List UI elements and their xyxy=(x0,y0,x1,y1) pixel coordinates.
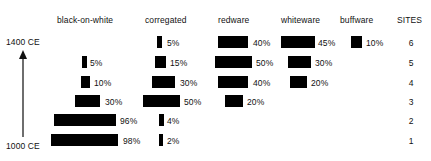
bar-label-black-on-white-site4: 10% xyxy=(94,78,111,88)
column-header-sites: SITES xyxy=(397,15,422,25)
column-header-redware: redware xyxy=(218,15,249,25)
bar-black-on-white-site2 xyxy=(54,114,116,126)
bar-label-corregated-site6: 5% xyxy=(167,38,180,48)
bar-corregated-site2 xyxy=(159,114,164,126)
bar-label-corregated-site4: 30% xyxy=(180,78,197,88)
bar-corregated-site1 xyxy=(159,134,163,146)
site-number-6: 6 xyxy=(400,38,422,48)
bar-whiteware-site4 xyxy=(290,76,307,88)
bar-label-black-on-white-site1: 98% xyxy=(123,136,140,146)
bar-whiteware-site5 xyxy=(288,56,311,68)
bar-label-corregated-site3: 50% xyxy=(184,97,201,107)
bar-redware-site4 xyxy=(218,76,248,88)
bar-label-black-on-white-site2: 96% xyxy=(120,116,137,126)
bar-black-on-white-site5 xyxy=(82,56,87,68)
site-number-4: 4 xyxy=(400,78,422,88)
bar-redware-site5 xyxy=(215,56,252,68)
bar-label-buffware-site6: 10% xyxy=(366,38,383,48)
column-header-corregated: corregated xyxy=(145,15,187,25)
bar-corregated-site3 xyxy=(143,95,180,107)
time-arrow-shaft xyxy=(22,57,24,137)
bar-buffware-site6 xyxy=(351,36,362,48)
bar-redware-site6 xyxy=(218,36,248,48)
bar-label-redware-site3: 20% xyxy=(247,97,264,107)
bar-label-black-on-white-site3: 30% xyxy=(105,97,122,107)
time-arrow-head-icon xyxy=(19,50,27,59)
bar-black-on-white-site3 xyxy=(75,95,100,107)
site-number-1: 1 xyxy=(400,136,422,146)
site-number-2: 2 xyxy=(400,116,422,126)
column-header-black-on-white: black-on-white xyxy=(57,15,113,25)
ceramic-frequency-chart: black-on-white corregated redware whitew… xyxy=(0,0,431,161)
bar-corregated-site4 xyxy=(152,76,175,88)
bar-black-on-white-site1 xyxy=(51,134,118,146)
bar-label-corregated-site2: 4% xyxy=(167,116,180,126)
bar-label-whiteware-site6: 45% xyxy=(318,38,335,48)
bar-label-redware-site5: 50% xyxy=(256,58,273,68)
site-number-3: 3 xyxy=(400,97,422,107)
axis-label-1000ce: 1000 CE xyxy=(6,141,40,151)
bar-label-redware-site4: 40% xyxy=(253,78,270,88)
bar-label-corregated-site1: 2% xyxy=(167,136,180,146)
axis-label-1400ce: 1400 CE xyxy=(6,37,40,47)
bar-label-whiteware-site5: 30% xyxy=(315,58,332,68)
site-number-5: 5 xyxy=(400,58,422,68)
column-header-whiteware: whiteware xyxy=(281,15,320,25)
bar-redware-site3 xyxy=(225,95,243,107)
bar-whiteware-site6 xyxy=(281,36,315,48)
bar-corregated-site6 xyxy=(157,36,162,48)
column-header-buffware: buffware xyxy=(340,15,373,25)
bar-label-redware-site6: 40% xyxy=(253,38,270,48)
bar-label-corregated-site5: 15% xyxy=(170,58,187,68)
bar-label-black-on-white-site5: 5% xyxy=(90,58,103,68)
bar-corregated-site5 xyxy=(155,56,166,68)
bar-black-on-white-site4 xyxy=(81,76,90,88)
bar-label-whiteware-site4: 20% xyxy=(311,78,328,88)
